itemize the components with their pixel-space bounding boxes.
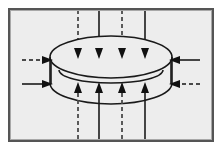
torus-outer-silhouette: [50, 36, 172, 104]
figure-root: Toroid with vertical magnetic flux lines…: [0, 0, 222, 150]
torus-field-diagram: Toroid with vertical magnetic flux lines…: [0, 0, 222, 150]
torus-body: [50, 36, 172, 104]
